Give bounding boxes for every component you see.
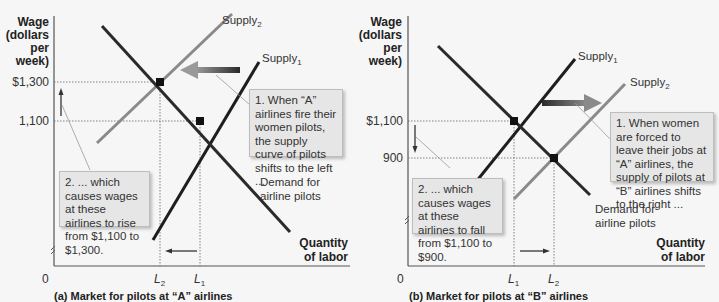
label-subscript: 2	[257, 20, 261, 29]
label-line: airline pilots	[260, 189, 321, 203]
label-text: Supply	[630, 76, 665, 88]
supply2-label: Supply2	[630, 76, 670, 91]
label-line: airline pilots	[595, 216, 656, 230]
x-tick-l2: L2	[548, 272, 559, 288]
xlabel-line: Quantity	[645, 236, 705, 250]
supply2-label: Supply2	[222, 14, 262, 29]
panel-b-caption: (b) Market for pilots at “B” airlines	[409, 290, 588, 302]
shift-left-arrow-icon	[180, 61, 240, 79]
label-subscript: 1	[613, 56, 617, 65]
annotation-box-1: 1. When women are forced to leave their …	[610, 112, 714, 182]
origin-label: 0	[397, 272, 404, 286]
equilibrium-point-900	[550, 154, 558, 162]
xlabel-line: Quantity	[290, 236, 348, 250]
annotation-box-2: 2. ... which causes wages at these airli…	[412, 178, 503, 234]
label-text: Supply	[578, 50, 613, 62]
panel-a-caption: (a) Market for pilots at “A” airlines	[54, 290, 232, 302]
origin-label: 0	[42, 272, 49, 286]
annotation-box-2: 2. ... which causes wages at these airli…	[59, 171, 150, 227]
panel-a-y-axis-label: Wage (dollars per week)	[0, 16, 49, 68]
l-subscript: 1	[201, 279, 205, 288]
l-symbol: L	[194, 272, 201, 286]
l-subscript: 2	[555, 279, 559, 288]
x-tick-l2: L2	[154, 272, 165, 288]
equilibrium-point-1100	[196, 117, 204, 125]
tick-1300: $1,300	[0, 75, 49, 89]
label-subscript: 2	[665, 82, 669, 91]
panel-a-x-axis-label: Quantity of labor	[290, 236, 348, 264]
supply1-label: Supply1	[578, 50, 618, 65]
supply1-curve	[153, 62, 259, 240]
panel-b-x-axis-label: Quantity of labor	[645, 236, 705, 264]
demand-label: Demand for airline pilots	[260, 175, 321, 203]
xlabel-line: of labor	[645, 250, 705, 264]
x-tick-l1: L1	[194, 272, 205, 288]
tick-1100: 1,100	[0, 114, 49, 128]
quantity-right-arrow-icon	[520, 249, 550, 254]
label-line: Demand for	[260, 175, 321, 189]
tick-1100: $1,100	[355, 114, 403, 128]
xlabel-line: of labor	[290, 250, 348, 264]
l-subscript: 1	[515, 279, 519, 288]
shift-right-arrow-icon	[542, 94, 602, 112]
equilibrium-point-1100	[510, 117, 518, 125]
panel-b-y-axis-label: Wage (dollars per week)	[355, 16, 402, 68]
l-symbol: L	[154, 272, 161, 286]
wage-up-arrow-icon	[59, 88, 64, 116]
l-subscript: 2	[161, 279, 165, 288]
supply1-label: Supply1	[262, 52, 302, 67]
annotation-box-1: 1. When “A” airlines fire their women pi…	[249, 89, 343, 157]
equilibrium-point-1300	[156, 78, 164, 86]
label-subscript: 1	[297, 58, 301, 67]
label-text: Supply	[262, 52, 297, 64]
l-symbol: L	[548, 272, 555, 286]
x-tick-l1: L1	[508, 272, 519, 288]
tick-900: 900	[355, 151, 403, 165]
ylabel-line: week)	[355, 55, 402, 68]
l-symbol: L	[508, 272, 515, 286]
wage-down-arrow-icon	[413, 125, 418, 153]
quantity-left-arrow-icon	[165, 249, 197, 254]
label-text: Supply	[222, 14, 257, 26]
supply2-curve	[97, 14, 232, 143]
ylabel-line: week)	[0, 55, 49, 68]
